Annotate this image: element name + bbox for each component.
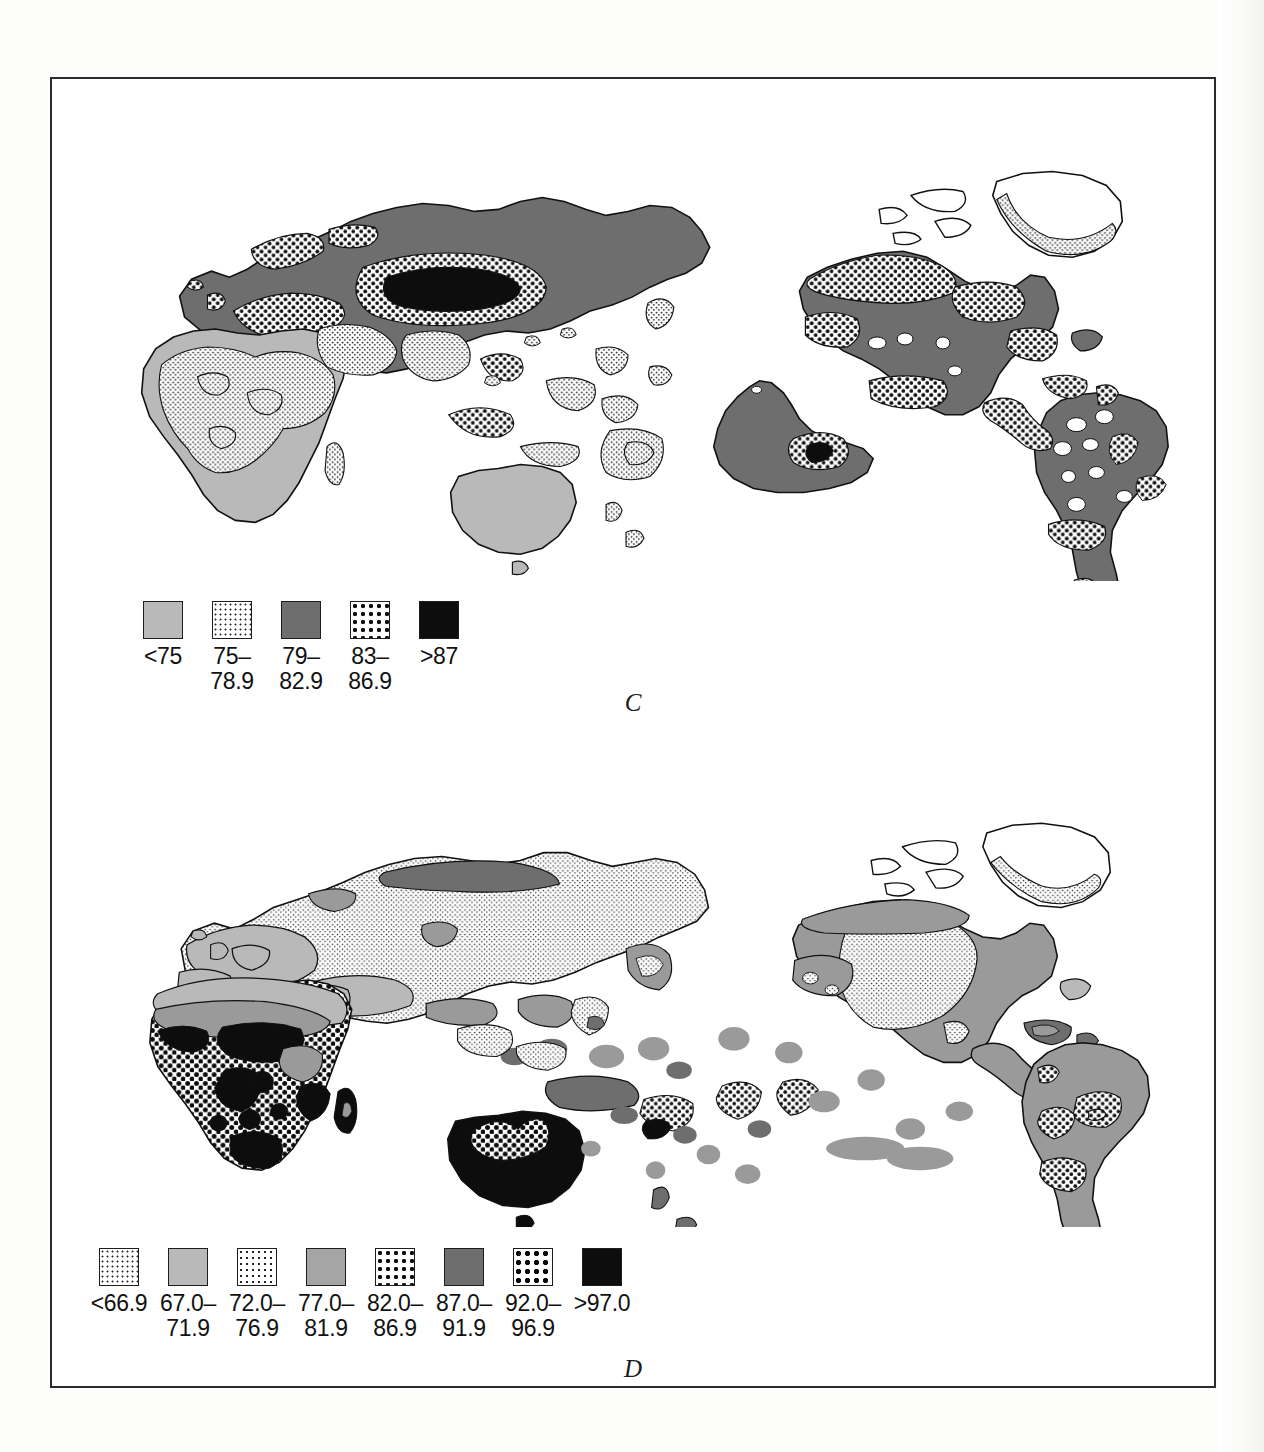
region-patagonia-dots-c (1049, 520, 1106, 550)
panel-c: <75 75– 78.9 79– 82.9 83– 86.9 >87 C (52, 79, 1214, 719)
region-australia-c (451, 465, 577, 555)
page-scan-edge (1218, 0, 1264, 1452)
region-tasmania-c (512, 561, 528, 574)
region-alaska-dots-c (805, 313, 859, 348)
map-d-landmasses (150, 823, 1150, 1227)
region-amazon-dots-d (1073, 1092, 1121, 1128)
legend-swatch (444, 1248, 484, 1286)
legend-panel-d: <66.9 67.0– 71.9 72.0– 76.9 77.0– 81.9 8… (88, 1248, 640, 1341)
map-c-landmasses (142, 172, 1168, 581)
region-himalaya-gray-d (426, 999, 497, 1026)
region-canada-north-gray-d (802, 900, 970, 934)
map-d (52, 737, 1214, 1227)
region-java-dots-c (520, 443, 579, 467)
legend-swatch-label: 72.0– 76.9 (229, 1291, 285, 1341)
legend-swatch (281, 601, 321, 639)
region-new-guinea-c (714, 381, 873, 493)
region-solomon-dots-d (716, 1082, 761, 1119)
region-india-dots-c (401, 331, 470, 381)
region-iceland-c (1071, 330, 1102, 351)
region-philippines-dots-c (596, 347, 628, 375)
region-japan-c (646, 299, 674, 329)
legend-swatch-label: 83– 86.9 (348, 644, 392, 694)
map-d-svg (52, 737, 1214, 1227)
legend-swatch-label: 79– 82.9 (279, 644, 323, 694)
region-micronesia-dots-c (649, 366, 672, 385)
map-c (52, 81, 1214, 581)
region-us-south-dots-c (869, 376, 947, 409)
legend-item[interactable]: 72.0– 76.9 (226, 1248, 288, 1341)
legend-item[interactable]: 83– 86.9 (339, 601, 401, 694)
region-new-guinea-tip-c (752, 386, 762, 393)
region-philippines-d (571, 997, 608, 1035)
region-sulawesi-dots-c (602, 396, 638, 423)
legend-swatch (513, 1248, 553, 1286)
region-se-asia-gray-d (518, 995, 573, 1027)
region-arctic-islands-c (879, 189, 971, 244)
region-tasmania-d (516, 1215, 534, 1227)
region-alaska-d (793, 955, 853, 995)
region-madagascar-c (325, 443, 344, 485)
region-sumatra-dots-c (449, 408, 514, 437)
legend-item[interactable]: 77.0– 81.9 (295, 1248, 357, 1341)
region-melanesia-black-d (642, 1119, 671, 1139)
region-kola-dots-c (329, 225, 378, 248)
map-c-svg (52, 81, 1214, 581)
legend-swatch-label: 82.0– 86.9 (367, 1291, 423, 1341)
legend-swatch-label: >87 (420, 644, 458, 669)
region-caribbean-c (1043, 375, 1088, 398)
legend-swatch (375, 1248, 415, 1286)
legend-swatch-label: 67.0– 71.9 (160, 1291, 216, 1341)
panel-letter-d: D (52, 1355, 1214, 1383)
legend-swatch (237, 1248, 277, 1286)
region-arctic-islands-d (871, 841, 963, 896)
legend-item[interactable]: 82.0– 86.9 (364, 1248, 426, 1341)
region-melanesia-arc-c (601, 429, 663, 480)
legend-item[interactable]: <75 (132, 601, 194, 669)
legend-item[interactable]: <66.9 (88, 1248, 150, 1316)
legend-swatch (582, 1248, 622, 1286)
legend-swatch-label: 77.0– 81.9 (298, 1291, 354, 1341)
legend-swatch-label: 75– 78.9 (210, 644, 254, 694)
panel-d: <66.9 67.0– 71.9 72.0– 76.9 77.0– 81.9 8… (52, 719, 1214, 1388)
region-canada-arctic-dots-c (807, 255, 956, 303)
legend-item[interactable]: 75– 78.9 (201, 601, 263, 694)
legend-swatch (212, 601, 252, 639)
region-pacific-islands-d (581, 1027, 973, 1184)
region-hudson-dots-c (952, 282, 1024, 322)
legend-swatch-label: 92.0– 96.9 (505, 1291, 561, 1341)
legend-swatch-label: 87.0– 91.9 (436, 1291, 492, 1341)
legend-item[interactable]: >97.0 (571, 1248, 633, 1316)
legend-item[interactable]: 67.0– 71.9 (157, 1248, 219, 1341)
region-borneo-dots-c (546, 378, 595, 411)
legend-swatch (419, 601, 459, 639)
region-new-guinea-d (546, 1076, 639, 1111)
legend-swatch (168, 1248, 208, 1286)
legend-swatch (350, 601, 390, 639)
legend-swatch (99, 1248, 139, 1286)
legend-swatch-label: <75 (144, 644, 182, 669)
legend-swatch-label: >97.0 (574, 1291, 631, 1316)
legend-item[interactable]: 92.0– 96.9 (502, 1248, 564, 1341)
figure-frame: <75 75– 78.9 79– 82.9 83– 86.9 >87 C (50, 77, 1216, 1388)
legend-swatch-label: <66.9 (91, 1291, 148, 1316)
legend-item[interactable]: 79– 82.9 (270, 601, 332, 694)
legend-item[interactable]: >87 (408, 601, 470, 669)
region-pampas-dots-d (1040, 1158, 1086, 1192)
legend-swatch (306, 1248, 346, 1286)
legend-panel-c: <75 75– 78.9 79– 82.9 83– 86.9 >87 (132, 601, 477, 694)
region-nz-d (652, 1187, 697, 1227)
legend-item[interactable]: 87.0– 91.9 (433, 1248, 495, 1341)
region-iceland-d (1060, 979, 1090, 1000)
panel-letter-c: C (52, 689, 1214, 717)
region-nz-c (606, 502, 644, 547)
legend-swatch (143, 601, 183, 639)
